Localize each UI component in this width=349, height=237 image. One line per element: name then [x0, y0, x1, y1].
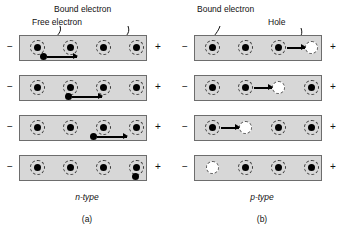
terminal-positive: + — [327, 122, 339, 132]
bound-electron-site — [30, 80, 45, 95]
bound-electron-site — [129, 120, 144, 135]
drift-direction-arrow — [72, 96, 102, 98]
drift-direction-arrow — [287, 47, 305, 49]
terminal-positive: + — [152, 122, 164, 132]
bound-electron-site — [238, 160, 253, 175]
terminal-positive: + — [327, 82, 339, 92]
semiconductor-slab — [19, 75, 147, 101]
hole-symbol — [239, 121, 252, 134]
bound-electron-site — [304, 80, 319, 95]
panel-caption: (a) — [0, 214, 174, 224]
bound-electron-site — [271, 160, 286, 175]
semiconductor-slab — [19, 115, 147, 141]
callout-label-bound-electron: Bound electron — [197, 4, 254, 14]
hole-site — [238, 120, 253, 135]
material-type-label: n-type — [0, 192, 174, 202]
hole-site — [271, 80, 286, 95]
terminal-negative: − — [179, 122, 191, 132]
bound-electron-site — [96, 160, 111, 175]
bound-electron-site — [96, 40, 111, 55]
terminal-negative: − — [4, 122, 16, 132]
bound-electron-site — [30, 160, 45, 175]
drift-direction-arrow — [254, 87, 272, 89]
bound-electron-site — [63, 120, 78, 135]
slab-row: −+ — [0, 73, 174, 103]
terminal-positive: + — [152, 162, 164, 172]
bound-electron-site — [129, 40, 144, 55]
slab-row: −+ — [0, 33, 174, 63]
semiconductor-slab — [194, 35, 322, 61]
bound-electron-site — [205, 80, 220, 95]
hole-symbol — [305, 41, 318, 54]
bound-electron-site — [63, 160, 78, 175]
free-electron-dot — [132, 173, 139, 180]
semiconductor-slab — [194, 75, 322, 101]
material-type-suffix: -type — [255, 192, 274, 202]
slab-row: −+ — [175, 153, 349, 183]
drift-direction-arrow — [221, 127, 239, 129]
bound-electron-site — [96, 120, 111, 135]
slab-row: −+ — [175, 33, 349, 63]
semiconductor-slab — [19, 35, 147, 61]
terminal-positive: + — [152, 82, 164, 92]
bound-electron-site — [238, 40, 253, 55]
bound-electron-site — [30, 120, 45, 135]
drift-direction-arrow — [47, 56, 77, 58]
hole-symbol — [272, 81, 285, 94]
terminal-negative: − — [179, 162, 191, 172]
callout-label-free-electron: Free electron — [32, 17, 82, 27]
semiconductor-slab — [194, 155, 322, 181]
terminal-negative: − — [179, 82, 191, 92]
semiconductor-conduction-figure: Bound electronFree electron−+−+−+−+n-typ… — [0, 0, 349, 237]
hole-site — [304, 40, 319, 55]
panel-a: Bound electronFree electron−+−+−+−+n-typ… — [0, 0, 174, 237]
terminal-negative: − — [4, 162, 16, 172]
slab-row: −+ — [0, 113, 174, 143]
bound-electron-site — [129, 80, 144, 95]
hole-symbol — [206, 161, 219, 174]
callout-label-hole: Hole — [268, 17, 285, 27]
bound-electron-site — [205, 40, 220, 55]
terminal-negative: − — [4, 42, 16, 52]
bound-electron-site — [304, 160, 319, 175]
material-type-suffix: -type — [80, 192, 99, 202]
panel-b: Bound electronHole−+−+−+−+p-type(b) — [175, 0, 349, 237]
callout-label-bound-electron: Bound electron — [54, 4, 111, 14]
bound-electron-site — [238, 80, 253, 95]
bound-electron-site — [271, 40, 286, 55]
material-type-label: p-type — [175, 192, 349, 202]
semiconductor-slab — [19, 155, 147, 181]
terminal-positive: + — [152, 42, 164, 52]
terminal-negative: − — [4, 82, 16, 92]
bound-electron-site — [304, 120, 319, 135]
terminal-negative: − — [179, 42, 191, 52]
bound-electron-site — [271, 120, 286, 135]
hole-site — [205, 160, 220, 175]
terminal-positive: + — [327, 162, 339, 172]
slab-row: −+ — [175, 113, 349, 143]
semiconductor-slab — [194, 115, 322, 141]
drift-direction-arrow — [97, 136, 127, 138]
bound-electron-site — [205, 120, 220, 135]
panel-caption: (b) — [175, 214, 349, 224]
slab-row: −+ — [175, 73, 349, 103]
slab-row: −+ — [0, 153, 174, 183]
terminal-positive: + — [327, 42, 339, 52]
